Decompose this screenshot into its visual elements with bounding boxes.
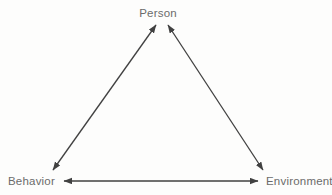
diagram-edges: [0, 0, 332, 195]
edge-environment-person: [168, 25, 263, 170]
node-label-behavior: Behavior: [8, 175, 55, 188]
node-label-environment: Environment: [266, 175, 332, 188]
node-label-person: Person: [139, 7, 177, 20]
edge-behavior-person: [53, 25, 156, 170]
triadic-triangle-diagram: Person Behavior Environment: [0, 0, 332, 195]
